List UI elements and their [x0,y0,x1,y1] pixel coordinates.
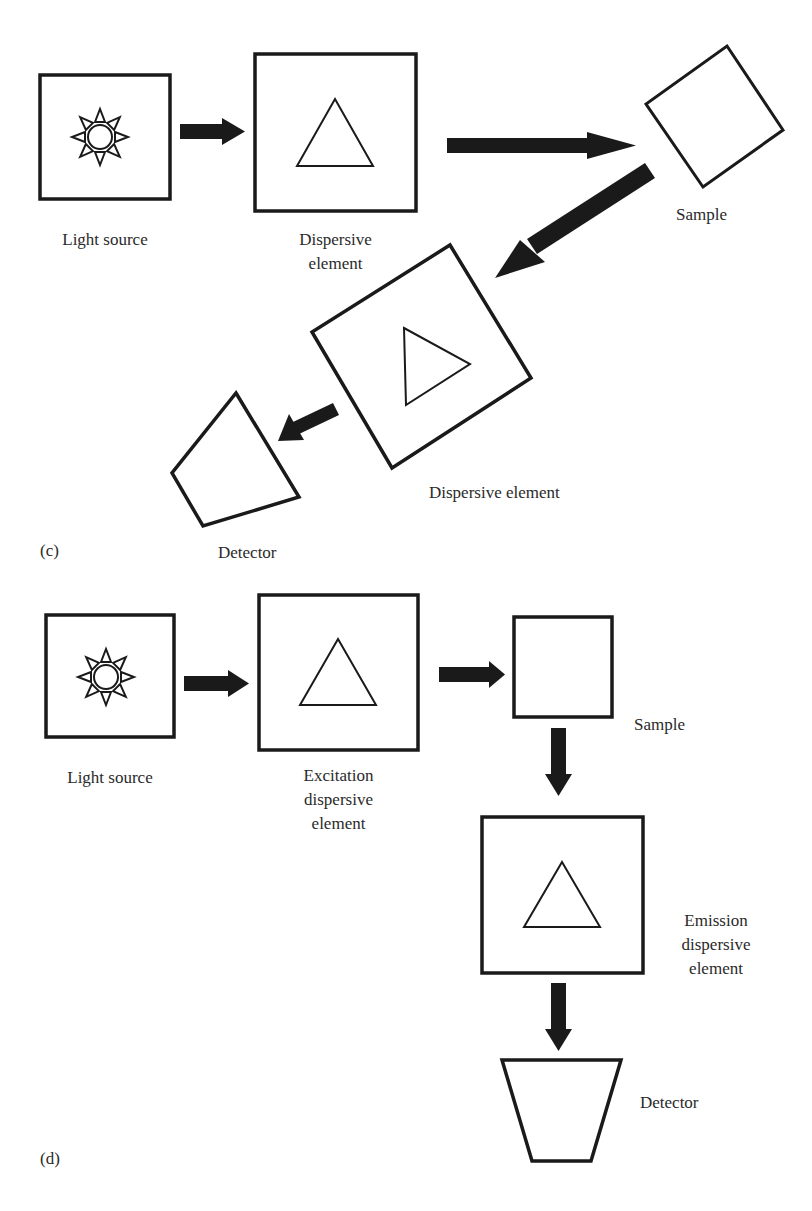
panel-d-tag: (d) [40,1149,60,1169]
light-source-label: Light source [46,766,174,790]
emission-dispersive-element-box [482,817,643,973]
arrow-icon [495,163,655,278]
sample-label: Sample [634,713,734,737]
sample-label: Sample [676,203,776,227]
panel-d [46,595,643,1161]
arrow-icon [180,118,245,145]
spectrometer-diagram: Light source Dispersive element Sample D… [0,0,812,1211]
arrow-icon [545,728,572,796]
detector-label: Detector [218,541,318,565]
light-source-box [46,615,174,737]
arrow-icon [545,983,572,1051]
arrow-icon [447,132,636,159]
sun-icon [78,649,134,705]
sun-icon [72,109,128,165]
arrow-icon [184,670,249,697]
panel-c [40,46,783,526]
emission-dispersive-element-label: Emission dispersive element [666,909,766,981]
dispersive-element-label: Dispersive element [255,228,416,276]
light-source-label: Light source [40,228,170,252]
sample-box [514,617,612,717]
arrow-icon [439,661,505,688]
detector-label: Detector [640,1091,740,1115]
sample-box [646,46,783,187]
detector-shape [502,1060,621,1161]
light-source-box [40,75,170,199]
excitation-dispersive-element-box [259,595,418,750]
diagram-graphics [0,0,812,1211]
excitation-dispersive-element-label: Excitation dispersive element [259,764,418,836]
dispersive-element-box-rotated [312,245,531,468]
dispersive-element-box [255,54,416,211]
panel-c-tag: (c) [40,541,59,561]
arrow-icon [278,403,339,441]
detector-shape [172,393,299,526]
dispersive-element-2-label: Dispersive element [429,481,629,505]
